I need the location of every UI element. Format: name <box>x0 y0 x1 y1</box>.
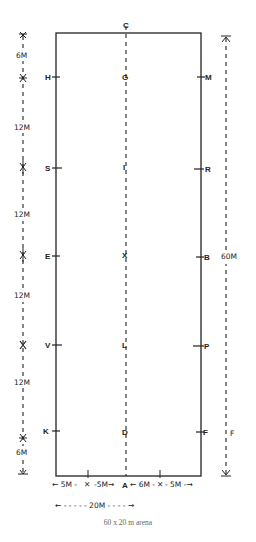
right-dimension: 60M F <box>220 36 244 476</box>
marker-S: S <box>45 164 51 173</box>
dim-bottom-5m-2: -5M→ <box>94 480 114 489</box>
marker-R: R <box>205 165 211 174</box>
dim-60m: 60M <box>221 252 237 261</box>
marker-V: V <box>45 341 51 350</box>
dim-bottom-x-1: ✕ <box>84 480 90 489</box>
arena-boundary <box>56 33 201 476</box>
dim-12m-3: 12M <box>14 291 30 300</box>
marker-B: B <box>204 253 210 262</box>
marker-A: A <box>122 481 128 490</box>
marker-F: F <box>203 428 208 437</box>
dim-12m-1: 12M <box>14 123 30 132</box>
marker-P: P <box>204 342 210 351</box>
marker-C: C <box>123 21 129 30</box>
figure-caption: 60 x 20 m arena <box>0 518 256 527</box>
arena-diagram: C G I X L D A H S E V K M R B P F <box>0 0 256 542</box>
left-markers: H S E V K <box>43 73 62 436</box>
marker-K: K <box>43 427 49 436</box>
dim-bottom-5m-1: ← 5M - <box>52 480 77 489</box>
dim-6m-bottom: 6M <box>16 448 27 457</box>
marker-L: L <box>122 341 127 350</box>
dim-6m-top: 6M <box>16 51 27 60</box>
dim-bottom-20m: ← - - - - - 20M - - - - → <box>55 501 134 510</box>
marker-H: H <box>45 73 51 82</box>
marker-M: M <box>205 73 212 82</box>
dim-12m-4: 12M <box>14 378 30 387</box>
dim-bottom-x-2: ✕ <box>157 480 163 489</box>
dim-bottom-6m: ← 6M - <box>130 480 155 489</box>
left-dimension: 6M 12M 12M 12M 12M 6M <box>13 32 33 474</box>
marker-I: I <box>123 163 125 172</box>
marker-G: G <box>122 73 128 82</box>
dim-right-F: F <box>230 429 234 438</box>
marker-X: X <box>122 251 128 260</box>
marker-E: E <box>45 252 51 261</box>
dim-12m-2: 12M <box>14 210 30 219</box>
marker-D: D <box>122 428 128 437</box>
dim-bottom-5m-3: - 5M -→ <box>165 480 193 489</box>
right-markers: M R B P F <box>193 73 212 437</box>
